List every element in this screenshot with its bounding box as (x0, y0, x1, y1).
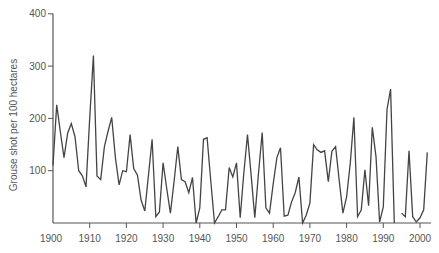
x-axis: 1900191019201930194019501960197019801990… (40, 223, 432, 244)
series-line (53, 56, 394, 223)
y-axis-label: Grouse shot per 100 hectares (8, 59, 19, 191)
x-tick-label: 1910 (79, 233, 102, 244)
x-tick-label: 1980 (335, 233, 358, 244)
y-axis: 100200300400 (29, 8, 53, 223)
y-tick-label: 400 (29, 8, 46, 19)
y-tick-label: 300 (29, 61, 46, 72)
grouse-chart: 100200300400 190019101920193019401950196… (0, 0, 439, 253)
x-tick-label: 1970 (299, 233, 322, 244)
y-tick-label: 200 (29, 113, 46, 124)
x-tick-label: 1930 (152, 233, 175, 244)
x-tick-label: 1960 (262, 233, 285, 244)
x-tick-label: 1900 (40, 233, 63, 244)
x-tick-label: 2000 (409, 233, 432, 244)
x-tick-label: 1990 (372, 233, 395, 244)
x-tick-label: 1950 (225, 233, 248, 244)
data-series (53, 56, 427, 223)
line-chart: 100200300400 190019101920193019401950196… (0, 0, 439, 253)
series-line (402, 151, 428, 222)
y-tick-label: 100 (29, 165, 46, 176)
x-tick-label: 1940 (189, 233, 212, 244)
x-tick-label: 1920 (115, 233, 138, 244)
